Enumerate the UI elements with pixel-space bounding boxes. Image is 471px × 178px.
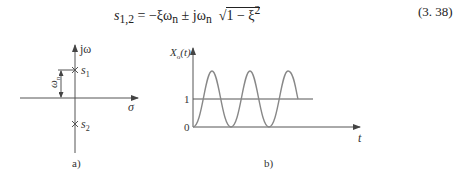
caption-b: b) <box>264 157 274 170</box>
tick-1-label: 1 <box>184 93 190 105</box>
figures: jω σ s1 s2 ωn a) Xo(t) 1 0 t b) <box>0 0 471 178</box>
t-axis-label: t <box>358 131 362 145</box>
caption-a: a) <box>72 157 81 170</box>
y-axis-label: Xo(t) <box>169 46 191 61</box>
figure-b-time-response: Xo(t) 1 0 t b) <box>169 46 362 170</box>
figure-a-s-plane: jω σ s1 s2 ωn a) <box>20 42 138 170</box>
dimension-label: ωn <box>47 76 62 88</box>
sigma-axis-label: σ <box>128 100 135 114</box>
jw-axis-label: jω <box>79 42 91 56</box>
tick-0-label: 0 <box>184 121 190 133</box>
pole2-label: s2 <box>81 117 90 133</box>
pole1-label: s1 <box>81 63 90 79</box>
